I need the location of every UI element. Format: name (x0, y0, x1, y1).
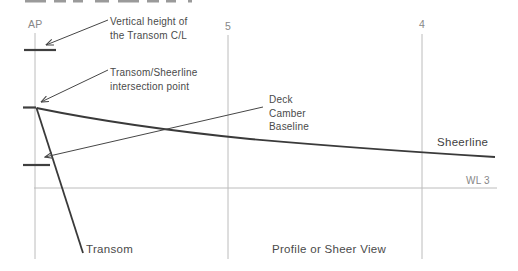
leader-deck-camber (45, 107, 263, 157)
sheer-view-diagram: AP 5 4 Vertical height of the Transom C/… (0, 0, 518, 271)
annotation-intersection-line2: intersection point (110, 80, 198, 94)
waterline-label: WL 3 (466, 174, 490, 188)
sheerline-curve (37, 108, 496, 157)
annotation-intersection: Transom/Sheerline intersection point (110, 66, 198, 94)
station-label-ap: AP (28, 18, 42, 32)
annotation-transom-height: Vertical height of the Transom C/L (110, 15, 188, 42)
annotation-deck-camber-line1: Deck (269, 93, 309, 107)
leader-transom-height (46, 20, 108, 45)
annotation-transom-height-line2: the Transom C/L (110, 29, 188, 43)
station-label-5: 5 (225, 20, 231, 34)
annotation-deck-camber-line2: Camber (269, 107, 309, 121)
station-label-4: 4 (419, 18, 425, 32)
leader-intersection (41, 70, 108, 102)
view-title: Profile or Sheer View (272, 243, 386, 257)
transom-line (37, 108, 84, 253)
annotation-deck-camber-line3: Baseline (269, 120, 309, 134)
annotation-deck-camber: Deck Camber Baseline (269, 93, 309, 134)
transom-label: Transom (86, 243, 133, 257)
annotation-transom-height-line1: Vertical height of (110, 15, 188, 29)
annotation-intersection-line1: Transom/Sheerline (110, 66, 198, 80)
sheerline-label: Sheerline (437, 136, 488, 150)
